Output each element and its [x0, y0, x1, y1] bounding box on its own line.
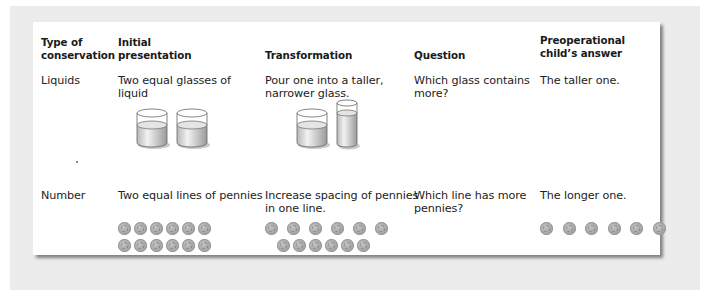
- penny-icon: [182, 222, 195, 235]
- header-text: child’s answer: [540, 47, 625, 60]
- penny-icon: [341, 239, 354, 252]
- conservation-table-card: Type of conservation Initial presentatio…: [33, 22, 660, 255]
- header-text: conservation: [41, 49, 115, 62]
- penny-icon: [653, 222, 666, 235]
- row-number-question: Which line has more pennies?: [414, 189, 526, 215]
- penny-icon: [375, 222, 388, 235]
- row-liquids-question: Which glass contains more?: [414, 74, 530, 100]
- penny-icon: [309, 239, 322, 252]
- penny-icon: [182, 239, 195, 252]
- cell-text: Which glass contains: [414, 74, 530, 87]
- cell-text: pennies?: [414, 202, 526, 215]
- penny-icon: [166, 222, 179, 235]
- penny-icon: [166, 239, 179, 252]
- penny-icon: [353, 222, 366, 235]
- penny-icon: [134, 239, 147, 252]
- row-number-type: Number: [41, 189, 85, 202]
- stray-mark: [76, 161, 78, 163]
- header-initial-presentation: Initial presentation: [118, 36, 191, 62]
- penny-icon: [118, 222, 131, 235]
- row-liquids-transformation: Pour one into a taller, narrower glass.: [265, 74, 383, 100]
- header-text: Transformation: [265, 49, 352, 62]
- penny-icon: [150, 222, 163, 235]
- header-text: Question: [414, 49, 465, 62]
- cell-text: in one line.: [265, 202, 418, 215]
- cell-text: Two equal glasses of: [118, 74, 231, 87]
- row-liquids-type: Liquids: [41, 74, 80, 87]
- penny-icon: [540, 222, 553, 235]
- header-text: Preoperational: [540, 34, 625, 47]
- penny-icon: [608, 222, 621, 235]
- row-number-initial: Two equal lines of pennies: [118, 189, 262, 202]
- glass-short-icon: [134, 108, 170, 150]
- row-liquids-initial: Two equal glasses of liquid: [118, 74, 231, 100]
- cell-text: more?: [414, 87, 530, 100]
- penny-icon: [309, 222, 322, 235]
- header-transformation: Transformation: [265, 49, 352, 62]
- header-preoperational-answer: Preoperational child’s answer: [540, 34, 625, 60]
- header-text: presentation: [118, 49, 191, 62]
- penny-icon: [563, 222, 576, 235]
- header-text: Type of: [41, 36, 115, 49]
- penny-icon: [585, 222, 598, 235]
- penny-icon: [630, 222, 643, 235]
- row-liquids-answer: The taller one.: [540, 74, 620, 87]
- cell-text: Increase spacing of pennies: [265, 189, 418, 202]
- header-text: Initial: [118, 36, 191, 49]
- penny-icon: [325, 239, 338, 252]
- penny-icon: [265, 222, 278, 235]
- row-number-transformation: Increase spacing of pennies in one line.: [265, 189, 418, 215]
- header-question: Question: [414, 49, 465, 62]
- penny-icon: [277, 239, 290, 252]
- cell-text: Pour one into a taller,: [265, 74, 383, 87]
- penny-icon: [118, 239, 131, 252]
- penny-icon: [293, 239, 306, 252]
- cell-text: Two equal lines of pennies: [118, 189, 262, 202]
- penny-icon: [150, 239, 163, 252]
- glass-short-icon: [174, 108, 210, 150]
- cell-text: liquid: [118, 87, 231, 100]
- penny-icon: [198, 222, 211, 235]
- cell-text: Which line has more: [414, 189, 526, 202]
- penny-icon: [357, 239, 370, 252]
- penny-icon: [198, 239, 211, 252]
- cell-text: narrower glass.: [265, 87, 383, 100]
- glass-tall-icon: [335, 98, 361, 151]
- glass-short-icon: [294, 108, 330, 150]
- penny-icon: [134, 222, 147, 235]
- penny-icon: [331, 222, 344, 235]
- penny-icon: [287, 222, 300, 235]
- row-number-answer: The longer one.: [540, 189, 626, 202]
- header-type-of-conservation: Type of conservation: [41, 36, 115, 62]
